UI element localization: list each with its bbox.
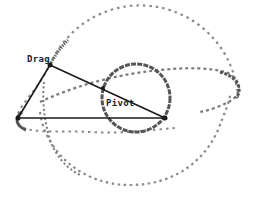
pivot-point[interactable] <box>163 116 168 121</box>
drag-label: Drag <box>27 54 50 64</box>
edge-drag-pivot <box>50 65 165 118</box>
locus-curve-left <box>17 68 175 133</box>
lower-trace-curve <box>40 95 230 185</box>
edge-drag-left <box>18 65 50 118</box>
large-trace-circle <box>50 5 238 98</box>
large-trace-heavy-segment <box>50 40 68 65</box>
edge-point <box>101 86 105 90</box>
vertical-trace <box>43 82 80 175</box>
pivot-label: Pivot <box>106 98 135 108</box>
triangle <box>18 65 165 118</box>
left-vertex-point[interactable] <box>16 116 21 121</box>
